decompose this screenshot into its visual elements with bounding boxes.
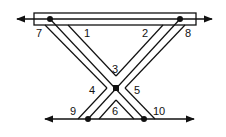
right-transversal-strip (88, 19, 185, 119)
angle-label-4: 4 (89, 84, 95, 96)
geometry-diagram: 7 1 2 8 3 4 5 9 6 10 (0, 0, 226, 137)
bottom-right-point (141, 116, 147, 122)
angle-label-2: 2 (142, 27, 148, 39)
angle-label-10: 10 (153, 105, 165, 117)
angle-label-3: 3 (112, 63, 118, 75)
angle-label-9: 9 (70, 105, 76, 117)
angle-label-1: 1 (84, 27, 90, 39)
bottom-left-point (85, 116, 91, 122)
top-left-point (47, 16, 53, 22)
left-transversal-strip (45, 19, 144, 119)
angle-label-8: 8 (185, 27, 191, 39)
top-right-point (177, 16, 183, 22)
angle-label-6: 6 (112, 105, 118, 117)
center-intersection-point (113, 85, 119, 91)
angle-label-7: 7 (36, 27, 42, 39)
angle-label-5: 5 (134, 84, 140, 96)
